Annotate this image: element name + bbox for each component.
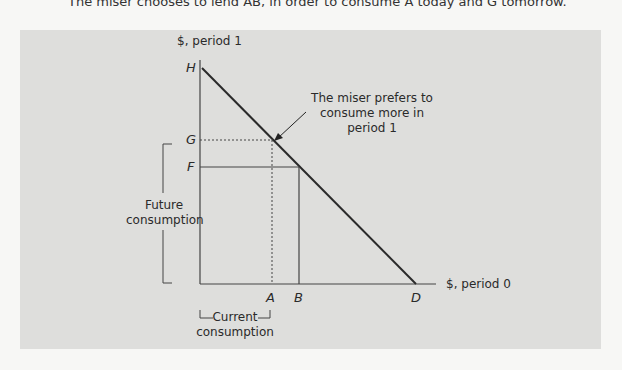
point-g-label: G [186,132,196,147]
annotation-line-1: The miser prefers to [305,91,439,106]
point-d-label: D [411,290,421,305]
diagram-lines [0,0,622,370]
point-b-label: B [294,290,303,305]
annotation-line-3: period 1 [305,121,439,136]
point-a-label: A [266,290,275,305]
future-consumption-label: Future consumption [126,198,202,228]
current-consumption-label: Current consumption [196,310,274,340]
point-f-label: F [187,159,194,174]
annotation-line-2: consume more in [305,106,439,121]
annotation-text: The miser prefers to consume more in per… [305,91,439,136]
point-h-label: H [186,60,196,75]
x-axis-label: $, period 0 [446,277,511,291]
annotation-arrow [278,112,306,138]
future-bracket-top [163,144,172,193]
y-axis-label: $, period 1 [177,34,242,48]
future-bracket-bottom [163,230,172,283]
